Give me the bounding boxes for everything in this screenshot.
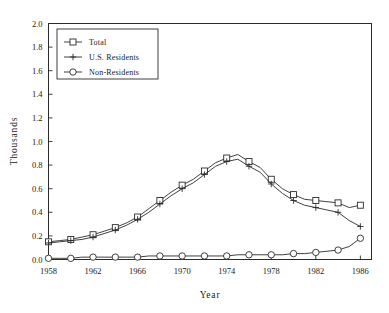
y-tick-label: 1.8 xyxy=(32,42,43,52)
y-tick-label: 1.4 xyxy=(32,89,43,99)
data-point-marker xyxy=(335,200,341,206)
chart-legend: TotalU.S. ResidentsNon-Residents xyxy=(57,29,158,79)
data-point-marker xyxy=(70,39,76,45)
y-tick-label: 0.6 xyxy=(32,184,43,194)
data-point-marker xyxy=(290,197,296,203)
data-point-marker xyxy=(90,254,96,260)
y-tick-label: 0.2 xyxy=(32,231,43,241)
x-tick-label: 1982 xyxy=(307,266,324,276)
x-tick-label: 1958 xyxy=(40,266,57,276)
data-point-marker xyxy=(357,235,363,241)
data-point-marker xyxy=(201,253,207,259)
series-total xyxy=(46,154,364,244)
legend-label: U.S. Residents xyxy=(89,53,139,62)
data-point-marker xyxy=(70,69,76,75)
y-axis-title: Thousands xyxy=(9,117,19,165)
data-point-marker xyxy=(291,192,297,198)
y-tick-label: 0.8 xyxy=(32,160,43,170)
x-tick-label: 1962 xyxy=(85,266,102,276)
y-axis-ticks: 0.00.20.40.60.81.01.21.41.61.82.0 xyxy=(32,19,53,265)
y-tick-label: 2.0 xyxy=(32,19,43,29)
x-axis-title: Year xyxy=(200,290,221,300)
data-point-marker xyxy=(357,223,363,229)
data-point-marker xyxy=(134,254,140,260)
data-point-marker xyxy=(157,253,163,259)
data-point-marker xyxy=(335,209,341,215)
series-group xyxy=(45,154,363,261)
data-point-marker xyxy=(112,254,118,260)
y-tick-label: 1.2 xyxy=(32,113,43,123)
x-tick-label: 1974 xyxy=(218,266,236,276)
data-point-marker xyxy=(68,255,74,261)
y-tick-label: 0.4 xyxy=(32,207,43,217)
data-point-marker xyxy=(268,252,274,258)
data-point-marker xyxy=(313,204,319,210)
data-point-marker xyxy=(224,253,230,259)
x-tick-label: 1986 xyxy=(352,266,369,276)
x-tick-label: 1966 xyxy=(129,266,146,276)
legend-label: Non-Residents xyxy=(89,68,139,77)
y-tick-label: 0.0 xyxy=(32,255,43,265)
data-point-marker xyxy=(335,247,341,253)
line-chart: 0.00.20.40.60.81.01.21.41.61.82.0 195819… xyxy=(0,0,389,313)
x-tick-label: 1970 xyxy=(174,266,191,276)
data-point-marker xyxy=(313,249,319,255)
data-point-marker xyxy=(357,202,363,208)
y-tick-label: 1.0 xyxy=(32,137,43,147)
data-point-marker xyxy=(179,253,185,259)
data-point-marker xyxy=(290,250,296,256)
chart-container: 0.00.20.40.60.81.01.21.41.61.82.0 195819… xyxy=(0,0,389,313)
x-tick-label: 1978 xyxy=(263,266,280,276)
data-point-marker xyxy=(313,198,319,204)
legend-label: Total xyxy=(89,38,107,47)
data-point-marker xyxy=(246,252,252,258)
data-point-marker xyxy=(45,255,51,261)
y-tick-label: 1.6 xyxy=(32,66,43,76)
